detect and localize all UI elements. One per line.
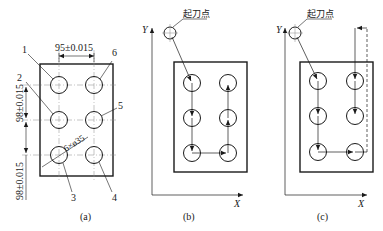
plate-outline	[300, 62, 373, 172]
tool-path	[172, 37, 228, 153]
dim-horizontal-label: 95±0.015	[55, 42, 93, 53]
axis-label-x: X	[233, 198, 241, 209]
hole-label-5: 5	[118, 100, 123, 111]
start-point	[162, 24, 178, 42]
hole-spec-label: 6×ø35	[62, 132, 87, 153]
start-label-leader	[173, 19, 183, 27]
dim-vertical-label-1: 98±0.015	[14, 84, 25, 122]
caption-b: (b)	[183, 211, 195, 223]
panel-a: 95±0.015 98±0.015 98±0.015 6×ø35 1 2 3 4…	[14, 42, 123, 223]
hole-label-2: 2	[17, 72, 22, 83]
tool-path	[297, 28, 367, 152]
caption-c: (c)	[317, 211, 328, 223]
start-label-leader	[298, 19, 307, 27]
start-point	[287, 24, 303, 42]
diagram-canvas: 95±0.015 98±0.015 98±0.015 6×ø35 1 2 3 4…	[0, 0, 383, 231]
hole-label-1: 1	[22, 44, 27, 55]
horizontal-dimension	[59, 53, 94, 62]
axis-label-y: Y	[276, 24, 283, 35]
start-point-label: 起刀点	[307, 9, 334, 19]
hole-label-6: 6	[112, 47, 117, 58]
dim-vertical-label-2: 98±0.015	[14, 162, 25, 200]
holes	[310, 73, 364, 161]
axis-label-x: X	[357, 198, 365, 209]
start-point-label: 起刀点	[183, 9, 210, 19]
caption-a: (a)	[80, 211, 91, 223]
panel-c: Y X 起刀点 (c)	[276, 9, 373, 223]
hole-label-4: 4	[112, 192, 117, 203]
panel-b: Y X 起刀点 (b)	[142, 9, 247, 223]
axis-label-y: Y	[142, 24, 149, 35]
hole-label-3: 3	[71, 192, 76, 203]
holes	[184, 75, 237, 162]
